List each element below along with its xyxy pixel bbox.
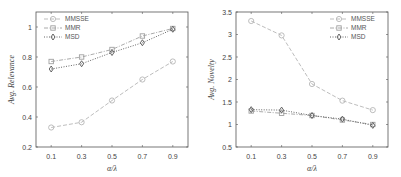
y-tick-label: 1 (228, 121, 232, 128)
x-tick-label: 0.7 (338, 153, 348, 160)
x-tick-label: 0.9 (368, 153, 378, 160)
y-tick-label: 1 (28, 24, 32, 31)
x-tick-label: 0.7 (138, 153, 148, 160)
y-tick-label: 0.2 (22, 144, 32, 151)
legend-label: MMR (65, 24, 81, 31)
y-tick-label: 2 (228, 76, 232, 83)
legend-label: MSD (65, 33, 80, 40)
y-tick-label: 0.5 (222, 144, 232, 151)
x-tick-label: 0.3 (77, 153, 87, 160)
x-axis-label: α/λ (107, 164, 117, 173)
legend-label: MMR (351, 24, 367, 31)
figure: 0.10.30.50.70.90.20.40.60.81α/λAvg. Rele… (0, 0, 401, 177)
x-axis-label: α/λ (307, 164, 317, 173)
y-tick-label: 2.5 (222, 54, 232, 61)
x-tick-label: 0.1 (246, 153, 256, 160)
y-axis-label: Avg. Novelty (207, 59, 216, 101)
x-tick-label: 0.3 (277, 153, 287, 160)
y-axis-label: Avg. Relevance (7, 55, 16, 105)
y-tick-label: 3.5 (222, 9, 232, 16)
x-tick-label: 0.5 (107, 153, 117, 160)
y-tick-label: 0.8 (22, 54, 32, 61)
legend-label: MSD (351, 33, 366, 40)
y-tick-label: 0.6 (22, 84, 32, 91)
plot-frame (236, 12, 388, 147)
y-tick-label: 3 (228, 31, 232, 38)
y-tick-label: 1.5 (222, 99, 232, 106)
novelty-chart: 0.10.30.50.70.90.511.522.533.5α/λAvg. No… (207, 9, 388, 174)
legend-label: MMSSE (65, 15, 90, 22)
legend-label: MMSSE (351, 15, 376, 22)
x-tick-label: 0.9 (168, 153, 178, 160)
x-tick-label: 0.5 (307, 153, 317, 160)
y-tick-label: 0.4 (22, 114, 32, 121)
relevance-chart: 0.10.30.50.70.90.20.40.60.81α/λAvg. Rele… (7, 12, 188, 173)
x-tick-label: 0.1 (46, 153, 56, 160)
figure-canvas: 0.10.30.50.70.90.20.40.60.81α/λAvg. Rele… (0, 0, 401, 177)
